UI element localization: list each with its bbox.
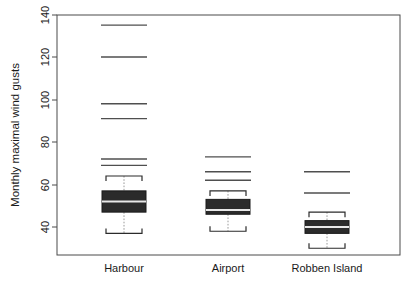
boxes-layer xyxy=(101,25,350,248)
y-tick-label-80: 80 xyxy=(39,136,51,148)
y-axis: 40 60 80 100 120 140 xyxy=(39,6,57,233)
x-category-label-harbour: Harbour xyxy=(104,262,144,274)
box-group-airport xyxy=(205,157,251,231)
y-tick-label-120: 120 xyxy=(39,48,51,66)
x-category-label-robben-island: Robben Island xyxy=(292,262,363,274)
boxplot-chart: 40 60 80 100 120 140 Monthly maximal win… xyxy=(0,0,418,289)
y-axis-title: Monthly maximal wind gusts xyxy=(9,63,21,207)
box-group-harbour xyxy=(101,25,147,233)
box-group-robben-island xyxy=(304,172,350,249)
y-tick-label-40: 40 xyxy=(39,221,51,233)
x-category-label-airport: Airport xyxy=(212,262,244,274)
y-tick-label-100: 100 xyxy=(39,91,51,109)
y-tick-label-140: 140 xyxy=(39,6,51,24)
x-axis: Harbour Airport Robben Island xyxy=(104,262,362,274)
box-iqr xyxy=(206,199,250,214)
y-tick-label-60: 60 xyxy=(39,179,51,191)
boxplot-canvas: 40 60 80 100 120 140 Monthly maximal win… xyxy=(0,0,418,289)
